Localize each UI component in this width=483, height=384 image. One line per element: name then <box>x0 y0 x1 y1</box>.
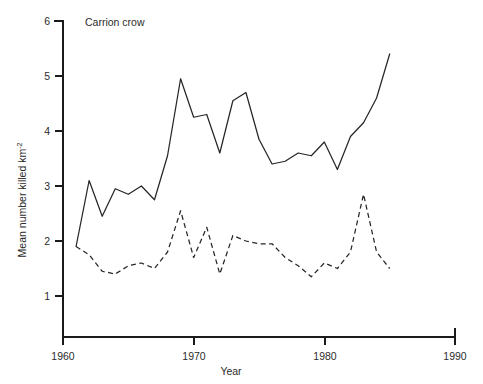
y-axis-title-group: Mean number killed km-2 <box>16 143 28 258</box>
x-axis-title: Year <box>220 365 242 377</box>
x-tick-labels: 1960 1970 1980 1990 <box>51 350 467 362</box>
x-tick-label-1980: 1980 <box>313 350 337 362</box>
x-tick-label-1970: 1970 <box>182 350 206 362</box>
y-axis-title-main: Mean number killed km <box>16 149 28 258</box>
y-tick-label-4: 4 <box>44 125 50 137</box>
carrion-crow-line-chart: 6 5 4 3 2 1 1960 1970 1980 1990 Year Mea… <box>0 0 483 384</box>
series-line-solid <box>76 54 390 247</box>
y-tick-label-2: 2 <box>44 235 50 247</box>
series-line-dashed <box>76 194 390 277</box>
x-tick-label-1960: 1960 <box>51 350 75 362</box>
y-tick-label-1: 1 <box>44 290 50 302</box>
y-tick-label-3: 3 <box>44 180 50 192</box>
x-tick-marks <box>63 337 455 345</box>
panel-title: Carrion crow <box>85 16 145 28</box>
axes-group <box>55 21 455 337</box>
y-axis-title: Mean number killed km-2 <box>16 143 28 258</box>
y-tick-label-6: 6 <box>44 15 50 27</box>
figure-container: 6 5 4 3 2 1 1960 1970 1980 1990 Year Mea… <box>0 0 483 384</box>
y-tick-marks <box>55 21 63 296</box>
y-tick-labels: 6 5 4 3 2 1 <box>44 15 50 302</box>
x-tick-label-1990: 1990 <box>443 350 467 362</box>
y-axis-title-superscript: -2 <box>16 143 23 149</box>
y-tick-label-5: 5 <box>44 70 50 82</box>
